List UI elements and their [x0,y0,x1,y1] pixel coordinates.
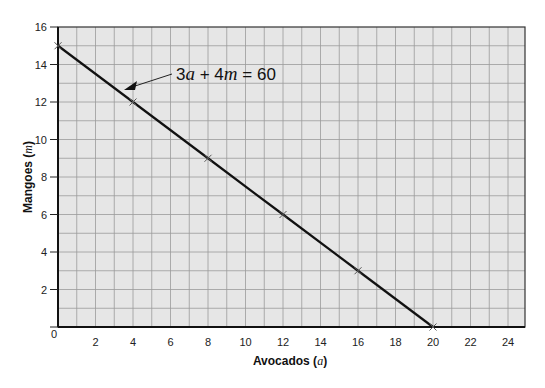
line-chart: 246810121416 24681012141618202224 0 3a +… [0,0,545,388]
y-tick-label: 10 [35,134,47,146]
equation-label: 3a + 4m = 60 [176,63,276,84]
x-tick-label: 2 [92,336,98,348]
x-tick-label: 16 [352,336,364,348]
x-tick-label: 24 [502,336,514,348]
x-origin-label: 0 [51,328,57,340]
x-tick-label: 14 [314,336,326,348]
x-tick-label: 4 [130,336,136,348]
y-tick-label: 16 [35,21,47,33]
x-tick-label: 8 [205,336,211,348]
y-tick-label: 2 [41,284,47,296]
x-tick-label: 6 [167,336,173,348]
y-tick-label: 12 [35,96,47,108]
y-axis-title: Mangoes (m) [21,141,35,213]
x-axis-title: Avocados (a) [253,354,327,368]
y-tick-label: 6 [41,209,47,221]
y-tick-label: 8 [41,171,47,183]
x-axis-ticks: 24681012141618202224 [92,336,514,348]
y-axis-ticks: 246810121416 [35,21,58,327]
x-tick-label: 10 [239,336,251,348]
x-tick-label: 22 [464,336,476,348]
x-tick-label: 20 [427,336,439,348]
y-tick-label: 14 [35,59,47,71]
x-tick-label: 12 [277,336,289,348]
x-tick-label: 18 [389,336,401,348]
y-tick-label: 4 [41,246,47,258]
